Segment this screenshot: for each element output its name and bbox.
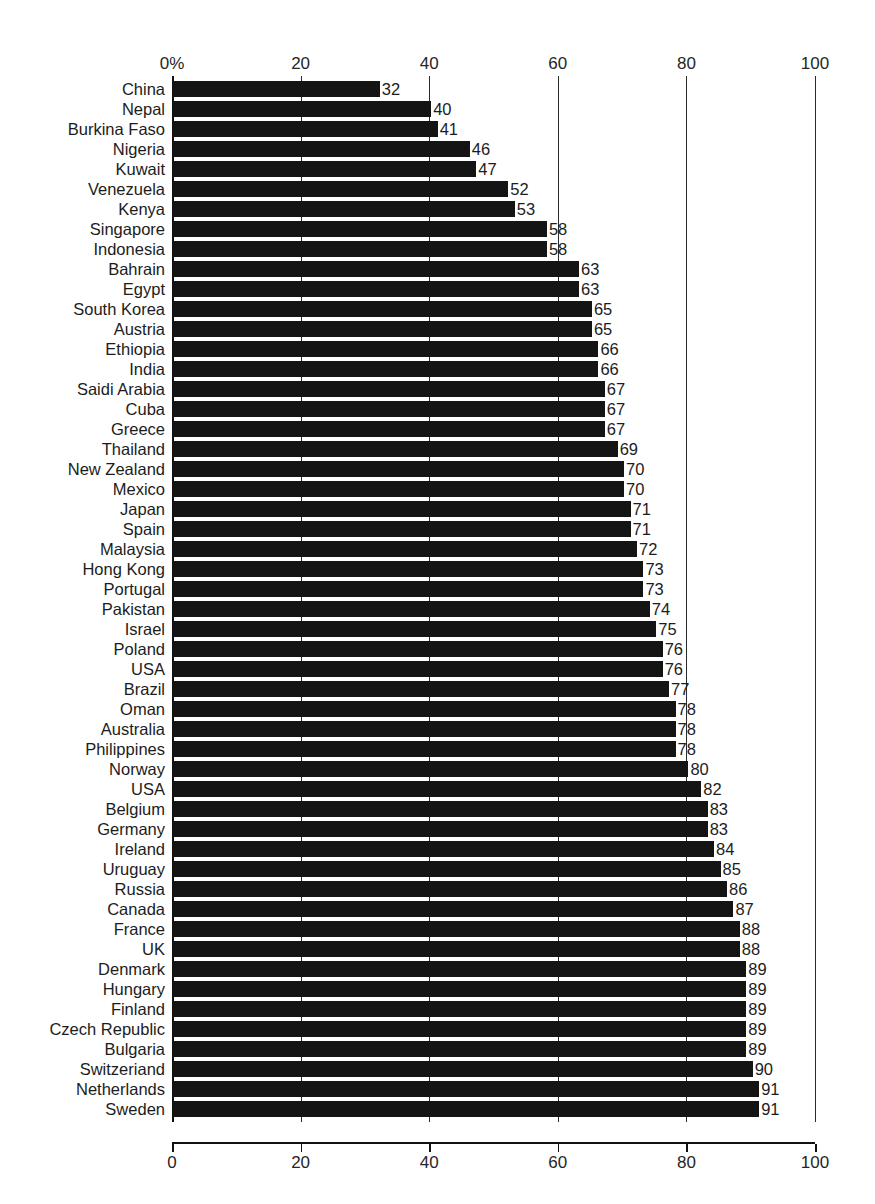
top-axis-tick-label: 100 bbox=[801, 54, 829, 74]
bar bbox=[173, 841, 714, 857]
bottom-axis-tick-label: 40 bbox=[420, 1153, 439, 1173]
bar-value-label: 67 bbox=[603, 400, 625, 418]
bar-row: Cuba67 bbox=[0, 400, 875, 420]
bar-value-label: 40 bbox=[429, 100, 451, 118]
bar-row: Denmark89 bbox=[0, 960, 875, 980]
category-label: South Korea bbox=[0, 300, 165, 318]
bar-value-label: 32 bbox=[378, 80, 400, 98]
bar-row: Hungary89 bbox=[0, 980, 875, 1000]
bar bbox=[173, 801, 708, 817]
bar bbox=[173, 361, 598, 377]
category-label: Portugal bbox=[0, 580, 165, 598]
bar-value-label: 73 bbox=[641, 580, 663, 598]
bar-value-label: 63 bbox=[577, 260, 599, 278]
bar-row: China32 bbox=[0, 80, 875, 100]
category-label: Singapore bbox=[0, 220, 165, 238]
bar bbox=[173, 1041, 746, 1057]
bar bbox=[173, 501, 631, 517]
bar-row: Malaysia72 bbox=[0, 540, 875, 560]
top-axis-tick-label: 40 bbox=[420, 54, 439, 74]
category-label: Bahrain bbox=[0, 260, 165, 278]
bar-rows: China32Nepal40Burkina Faso41Nigeria46Kuw… bbox=[0, 80, 875, 1120]
bar-row: Mexico70 bbox=[0, 480, 875, 500]
bar bbox=[173, 921, 740, 937]
category-label: Belgium bbox=[0, 800, 165, 818]
category-label: UK bbox=[0, 940, 165, 958]
bar bbox=[173, 461, 624, 477]
category-label: Ireland bbox=[0, 840, 165, 858]
category-label: Pakistan bbox=[0, 600, 165, 618]
category-label: Austria bbox=[0, 320, 165, 338]
bar-value-label: 76 bbox=[661, 660, 683, 678]
bar-row: Portugal73 bbox=[0, 580, 875, 600]
bar-row: Finland89 bbox=[0, 1000, 875, 1020]
bar-value-label: 58 bbox=[545, 220, 567, 238]
category-label: Mexico bbox=[0, 480, 165, 498]
bar bbox=[173, 901, 733, 917]
bar-row: Venezuela52 bbox=[0, 180, 875, 200]
bar-value-label: 67 bbox=[603, 380, 625, 398]
bar-value-label: 41 bbox=[436, 120, 458, 138]
bar-row: Uruguay85 bbox=[0, 860, 875, 880]
bar-value-label: 89 bbox=[744, 980, 766, 998]
bar bbox=[173, 1001, 746, 1017]
category-label: Brazil bbox=[0, 680, 165, 698]
bar-value-label: 74 bbox=[648, 600, 670, 618]
bar bbox=[173, 581, 643, 597]
bar-value-label: 70 bbox=[622, 480, 644, 498]
bar bbox=[173, 341, 598, 357]
bar bbox=[173, 221, 547, 237]
bar-value-label: 58 bbox=[545, 240, 567, 258]
bar-row: Sweden91 bbox=[0, 1100, 875, 1120]
bar-value-label: 65 bbox=[590, 320, 612, 338]
bar-chart: 0%20406080100 China32Nepal40Burkina Faso… bbox=[0, 0, 875, 1204]
bar bbox=[173, 1081, 759, 1097]
bar-value-label: 90 bbox=[751, 1060, 773, 1078]
category-label: Nepal bbox=[0, 100, 165, 118]
bar-value-label: 89 bbox=[744, 1020, 766, 1038]
bar-row: Nigeria46 bbox=[0, 140, 875, 160]
bar-row: Oman78 bbox=[0, 700, 875, 720]
bar-value-label: 87 bbox=[731, 900, 753, 918]
bar-value-label: 86 bbox=[725, 880, 747, 898]
bar-value-label: 69 bbox=[616, 440, 638, 458]
bar-row: USA82 bbox=[0, 780, 875, 800]
bar bbox=[173, 701, 676, 717]
bar-row: Czech Republic89 bbox=[0, 1020, 875, 1040]
bar-value-label: 71 bbox=[629, 500, 651, 518]
category-label: Israel bbox=[0, 620, 165, 638]
bar bbox=[173, 81, 380, 97]
bar-row: Norway80 bbox=[0, 760, 875, 780]
bar-row: Kuwait47 bbox=[0, 160, 875, 180]
bar-row: USA76 bbox=[0, 660, 875, 680]
category-label: Australia bbox=[0, 720, 165, 738]
bar-row: Burkina Faso41 bbox=[0, 120, 875, 140]
bar bbox=[173, 161, 476, 177]
bottom-axis-tick-label: 60 bbox=[548, 1153, 567, 1173]
category-label: Netherlands bbox=[0, 1080, 165, 1098]
bar bbox=[173, 741, 676, 757]
category-label: Malaysia bbox=[0, 540, 165, 558]
bar-value-label: 76 bbox=[661, 640, 683, 658]
bar-value-label: 89 bbox=[744, 1000, 766, 1018]
bar-value-label: 89 bbox=[744, 1040, 766, 1058]
bar-row: Greece67 bbox=[0, 420, 875, 440]
bar-value-label: 83 bbox=[706, 800, 728, 818]
bottom-axis-tick-mark bbox=[686, 1144, 688, 1152]
bar bbox=[173, 481, 624, 497]
bar-value-label: 66 bbox=[596, 340, 618, 358]
bar-row: South Korea65 bbox=[0, 300, 875, 320]
bar bbox=[173, 381, 605, 397]
bar bbox=[173, 761, 688, 777]
bar bbox=[173, 821, 708, 837]
bar-row: Nepal40 bbox=[0, 100, 875, 120]
category-label: Sweden bbox=[0, 1100, 165, 1118]
top-axis-tick-label: 60 bbox=[548, 54, 567, 74]
bar-value-label: 78 bbox=[674, 720, 696, 738]
category-label: Hong Kong bbox=[0, 560, 165, 578]
bar-row: Philippines78 bbox=[0, 740, 875, 760]
category-label: Oman bbox=[0, 700, 165, 718]
bar-value-label: 71 bbox=[629, 520, 651, 538]
category-label: Kenya bbox=[0, 200, 165, 218]
bar bbox=[173, 541, 637, 557]
